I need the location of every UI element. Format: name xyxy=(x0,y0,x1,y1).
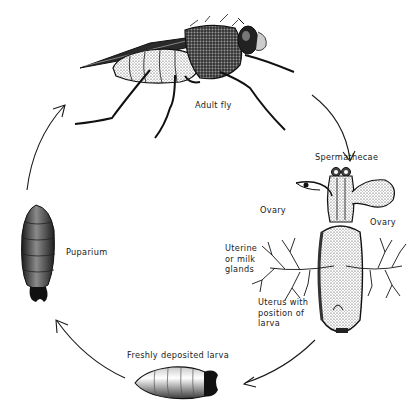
arrow-puparium-to-adult xyxy=(27,105,65,190)
adult-fly-illustration xyxy=(75,14,294,138)
puparium-illustration xyxy=(22,205,55,302)
label-larva: Freshly deposited larva xyxy=(127,350,229,361)
label-spermathecae: Spermathecae xyxy=(315,152,378,163)
arrow-larva-to-puparium xyxy=(56,320,125,378)
label-ovary-right: Ovary xyxy=(370,217,396,228)
label-ovary-left: Ovary xyxy=(260,205,286,216)
arrow-reproductive-to-larva xyxy=(244,340,315,387)
larva-illustration xyxy=(135,367,218,399)
label-puparium: Puparium xyxy=(66,247,107,258)
label-adult-fly: Adult fly xyxy=(195,100,232,111)
label-uterus: Uterus with position of larva xyxy=(258,297,308,329)
label-uterine-glands: Uterine or milk glands xyxy=(225,243,257,275)
